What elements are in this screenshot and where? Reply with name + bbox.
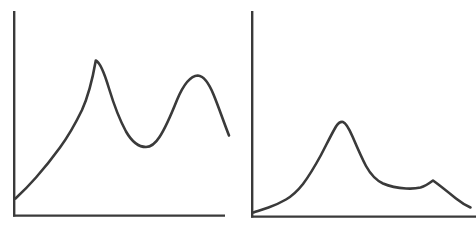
figure-container [0,0,476,229]
two-panel-line-plot [0,0,476,229]
left-panel-data-curve [16,61,230,199]
left-panel [13,11,229,217]
right-panel-data-curve [254,122,471,213]
right-panel [251,11,476,218]
